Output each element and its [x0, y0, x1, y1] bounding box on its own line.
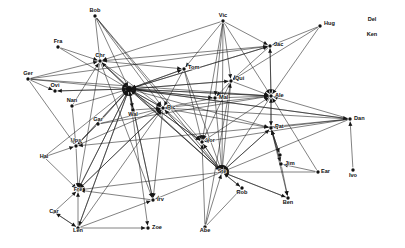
graph-node-zoe[interactable]	[146, 226, 149, 229]
graph-node-ear[interactable]	[316, 170, 319, 173]
node-label-jac: Jac	[274, 41, 283, 47]
node-label-jim: Jim	[285, 160, 295, 166]
graph-node-chr[interactable]	[98, 59, 101, 62]
graph-node-hub[interactable]	[126, 86, 132, 92]
graph-node-bob[interactable]	[93, 14, 96, 17]
node-label-pat: Pat	[275, 123, 284, 129]
node-label-rob: Rob	[237, 189, 248, 195]
node-label-qui: Qui	[235, 75, 245, 81]
node-label-ben: Ben	[283, 199, 294, 205]
node-label-ale: Ale	[275, 92, 284, 98]
node-label-gar: Gar	[93, 116, 103, 122]
graph-node-ric[interactable]	[161, 106, 164, 109]
node-label-wal: Wal	[128, 111, 138, 117]
node-label-len: Len	[73, 227, 84, 233]
graph-node-tom[interactable]	[182, 67, 185, 70]
graph-node-nan[interactable]	[70, 104, 73, 107]
graph-node-mal[interactable]	[213, 96, 216, 99]
node-label-irv: Irv	[157, 196, 165, 202]
graph-node-ale[interactable]	[269, 94, 272, 97]
node-label-ovi: Ovi	[50, 82, 59, 88]
figure-background	[0, 0, 405, 248]
node-label-ups: Ups	[71, 137, 82, 143]
graph-node-ivo[interactable]	[351, 168, 354, 171]
node-label-fra: Fra	[54, 38, 64, 44]
node-label-ste: Ste	[218, 168, 227, 174]
node-label-dan: Dan	[354, 115, 365, 121]
node-label-ger: Ger	[23, 70, 33, 76]
node-label-hal: Hal	[40, 153, 49, 159]
node-label-tom: Tom	[188, 64, 199, 70]
node-label-ken: Ken	[367, 31, 378, 37]
graph-node-pat[interactable]	[269, 126, 272, 129]
node-label-bob: Bob	[90, 7, 101, 13]
node-label-nan: Nan	[67, 97, 78, 103]
graph-node-qui[interactable]	[229, 79, 232, 82]
graph-node-vic[interactable]	[221, 19, 224, 22]
graph-node-ger[interactable]	[26, 77, 29, 80]
graph-node-dan[interactable]	[348, 117, 351, 120]
node-label-car: Car	[49, 208, 59, 214]
graph-node-gar[interactable]	[96, 122, 99, 125]
node-label-vic: Vic	[219, 12, 227, 18]
node-label-ivo: Ivo	[349, 172, 358, 178]
node-label-del: Del	[368, 16, 377, 22]
node-label-ric: Ric	[167, 104, 176, 110]
graph-node-joh[interactable]	[278, 153, 281, 156]
graph-node-jac[interactable]	[268, 44, 271, 47]
node-label-ear: Ear	[321, 168, 331, 174]
node-label-zoe: Zoe	[152, 224, 162, 230]
node-label-vor: Vor	[206, 137, 216, 143]
node-label-mal: Mal	[219, 94, 229, 100]
network-graph-canvas: BobVicHugDelKenFraJacChrTomGerQuiOviMalA…	[0, 0, 405, 248]
graph-node-hug[interactable]	[318, 24, 321, 27]
graph-node-irv[interactable]	[151, 198, 154, 201]
network-graph-figure: BobVicHugDelKenFraJacChrTomGerQuiOviMalA…	[0, 0, 405, 248]
graph-node-jim[interactable]	[279, 162, 282, 165]
node-label-fre: Fre	[74, 186, 83, 192]
node-label-hug: Hug	[324, 20, 335, 26]
node-label-chr: Chr	[95, 52, 105, 58]
graph-node-vor[interactable]	[200, 140, 203, 143]
graph-node-ups[interactable]	[74, 144, 77, 147]
graph-node-fra[interactable]	[56, 45, 59, 48]
node-label-abe: Abe	[200, 227, 211, 233]
graph-node-ovi[interactable]	[53, 89, 56, 92]
